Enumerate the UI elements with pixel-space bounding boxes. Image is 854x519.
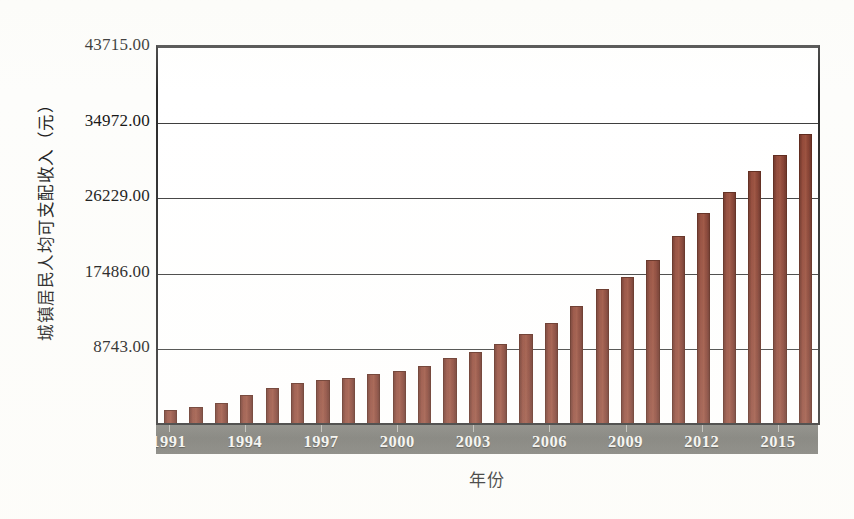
bar xyxy=(773,155,786,425)
bar xyxy=(596,289,609,425)
x-axis-tick-label: 1994 xyxy=(227,432,262,452)
bar xyxy=(748,171,761,425)
x-axis-tick-label: 1997 xyxy=(304,432,339,452)
x-axis-tick xyxy=(397,425,398,432)
bar xyxy=(443,358,456,425)
x-axis-title: 年份 xyxy=(156,466,818,491)
y-axis-tick-label: 8743.00 xyxy=(38,337,150,357)
y-axis-tick-label: 34972.00 xyxy=(38,111,150,131)
x-axis-tick-label: 2009 xyxy=(608,432,643,452)
bar-series xyxy=(158,47,818,425)
bar xyxy=(316,380,329,425)
x-axis-tick xyxy=(245,425,246,432)
bar xyxy=(266,388,279,425)
x-axis-tick-label: 2000 xyxy=(380,432,415,452)
x-axis-tick xyxy=(473,425,474,432)
x-axis-tick xyxy=(321,425,322,432)
y-axis-tick-label: 26229.00 xyxy=(38,186,150,206)
y-axis-tick-labels: 8743.0017486.0026229.0034972.0043715.00 xyxy=(38,0,150,519)
bar xyxy=(342,378,355,425)
x-axis-category-band: 199119941997200020032006200920122015 xyxy=(156,423,818,454)
bar-chart-figure: 城镇居民人均可支配收入（元） 8743.0017486.0026229.0034… xyxy=(0,0,854,519)
x-axis-tick-label: 1991 xyxy=(156,432,186,452)
y-axis-tick-label: 43715.00 xyxy=(38,35,150,55)
bar xyxy=(291,383,304,425)
x-axis-tick-label: 2003 xyxy=(456,432,491,452)
bar xyxy=(697,213,710,425)
bar xyxy=(799,134,812,425)
x-axis-tick xyxy=(702,425,703,432)
x-axis-tick xyxy=(626,425,627,432)
bar xyxy=(240,395,253,425)
x-axis-tick-label: 2006 xyxy=(532,432,567,452)
bar xyxy=(494,344,507,425)
plot-area xyxy=(156,45,820,425)
x-axis-tick xyxy=(549,425,550,432)
x-axis-tick-label: 2015 xyxy=(760,432,795,452)
bar xyxy=(672,236,685,425)
x-axis-tick-label: 2012 xyxy=(684,432,719,452)
x-axis-tick xyxy=(169,425,170,432)
bar xyxy=(418,366,431,425)
bar xyxy=(723,192,736,425)
bar xyxy=(621,277,634,426)
bar xyxy=(570,306,583,425)
bar xyxy=(646,260,659,425)
bar xyxy=(215,403,228,425)
bar xyxy=(519,334,532,425)
bar xyxy=(393,371,406,425)
bar xyxy=(545,323,558,425)
x-axis-tick xyxy=(778,425,779,432)
bar xyxy=(469,352,482,425)
bar xyxy=(367,374,380,425)
y-axis-tick-label: 17486.00 xyxy=(38,262,150,282)
